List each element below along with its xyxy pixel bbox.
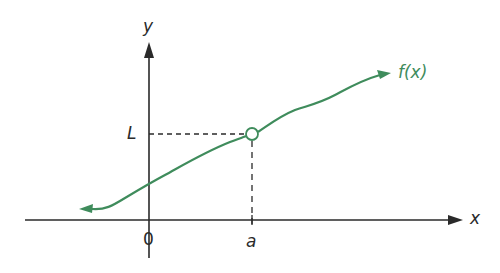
y-axis-arrow-icon [144,42,154,58]
y-axis-label: y [143,18,153,35]
function-label: f(x) [398,64,427,81]
function-curve [92,136,246,209]
x-axis-arrow-icon [448,215,463,225]
open-circle-hole [246,128,258,140]
x-axis-label: x [470,210,480,227]
function-curve-right [258,75,380,132]
L-label: L [127,125,136,142]
a-label: a [246,233,256,250]
curve-arrow-right-icon [377,70,391,79]
origin-label: 0 [143,231,154,248]
curve-arrow-left-icon [79,204,93,213]
